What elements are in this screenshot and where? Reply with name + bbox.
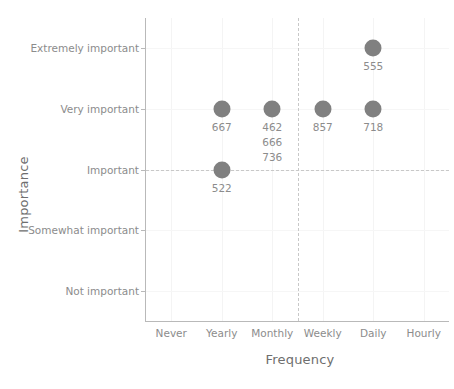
y-tick-label: Not important <box>65 285 139 297</box>
data-point-marker[interactable] <box>213 161 230 178</box>
data-point-marker[interactable] <box>365 100 382 117</box>
data-point-label: 857 <box>313 120 333 135</box>
y-axis-tick-labels: Not importantSomewhat importantImportant… <box>0 0 139 389</box>
data-point-marker[interactable] <box>264 100 281 117</box>
y-tick-mark <box>141 291 146 292</box>
data-point-value: 666 <box>262 135 282 150</box>
data-point-value: 462 <box>262 120 282 135</box>
x-tick-label: Daily <box>360 327 387 339</box>
y-tick-mark <box>141 170 146 171</box>
y-tick-mark <box>141 109 146 110</box>
x-tick-label: Hourly <box>407 327 441 339</box>
data-point-label: 522 <box>212 181 232 196</box>
x-tick-label: Never <box>156 327 187 339</box>
data-point-value: 667 <box>212 120 232 135</box>
x-axis-line <box>146 321 449 322</box>
data-point-marker[interactable] <box>314 100 331 117</box>
x-tick-label: Weekly <box>304 327 342 339</box>
y-tick-mark <box>141 230 146 231</box>
y-tick-label: Extremely important <box>30 42 139 54</box>
y-tick-label: Important <box>87 164 139 176</box>
data-point-label: 718 <box>363 120 383 135</box>
data-point-label: 667 <box>212 120 232 135</box>
y-tick-label: Very important <box>60 103 139 115</box>
y-tick-mark <box>141 48 146 49</box>
data-point-label: 555 <box>363 59 383 74</box>
y-tick-label: Somewhat important <box>28 224 139 236</box>
data-point-value: 718 <box>363 120 383 135</box>
data-point-value: 555 <box>363 59 383 74</box>
x-axis-title: Frequency <box>146 352 454 367</box>
vertical-reference-line <box>298 18 299 321</box>
x-tick-label: Monthly <box>251 327 293 339</box>
x-tick-label: Yearly <box>206 327 237 339</box>
data-point-marker[interactable] <box>213 100 230 117</box>
data-point-value: 522 <box>212 181 232 196</box>
data-point-label: 462666736 <box>262 120 282 165</box>
scatter-chart: Importance Frequency Not importantSomewh… <box>0 0 454 389</box>
data-point-value: 736 <box>262 150 282 165</box>
data-point-value: 857 <box>313 120 333 135</box>
data-point-marker[interactable] <box>365 40 382 57</box>
